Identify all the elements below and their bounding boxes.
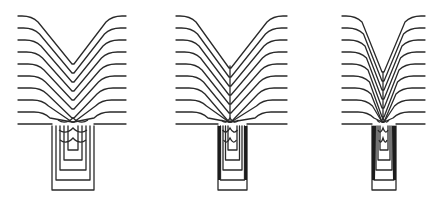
deposit-layer-line [176,64,287,104]
deposit-layer-line [176,88,287,122]
deposit-layer-line [18,40,126,82]
trench-fill-layer [64,126,82,160]
trench-fill-layer [56,126,90,180]
cusp-line [59,128,87,132]
cusp-line [223,128,238,132]
deposition-profiles-figure [0,0,439,200]
deposit-layer-line [176,28,287,77]
trench-fill-layer [221,126,245,180]
deposition-diagram [0,0,439,200]
deposit-layer-line [18,52,126,91]
deposit-layer-line [18,88,126,118]
deposit-layer-line [18,112,126,122]
deposit-layer-line [18,16,126,64]
trench-fill-layer [374,126,394,180]
deposit-layer-line [176,40,287,86]
deposit-layer-line [18,28,126,73]
deposit-layer-line [18,76,126,109]
